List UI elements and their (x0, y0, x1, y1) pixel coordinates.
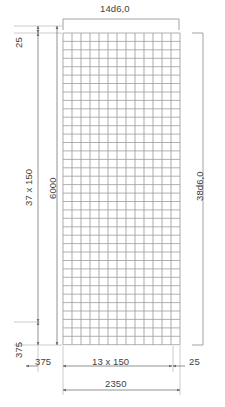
label-top-count-diameter: 14d6,0 (100, 4, 130, 14)
label-right-count-diameter: 38d6,0 (195, 171, 205, 201)
label-left-bottom-cover: 375 (14, 342, 24, 358)
label-bottom-spacing-run: 13 x 150 (92, 357, 129, 367)
mesh-horizontal-bars (63, 33, 180, 345)
label-bottom-overall-width: 2350 (105, 379, 127, 389)
label-left-overall-length: 6000 (48, 177, 58, 199)
mesh-vertical-bars (63, 33, 180, 345)
label-left-spacing-run: 37 x 150 (24, 169, 34, 206)
label-bottom-left-edge: 375 (35, 357, 51, 367)
mesh-panel (63, 33, 180, 345)
drawing-sheet: 14d6,0 25 37 x 150 6000 375 38d6,0 375 1… (0, 0, 225, 407)
label-bottom-right-edge: 25 (189, 357, 200, 367)
label-left-top-cover: 25 (14, 37, 24, 48)
top-count-bracket (63, 19, 179, 30)
